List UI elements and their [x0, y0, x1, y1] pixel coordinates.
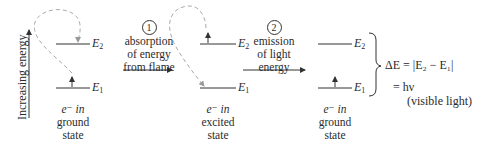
delta-e-equation: ΔE = |E₂ − E₁| — [385, 58, 453, 73]
brace — [369, 33, 381, 96]
state-label-excited: e⁻ inexcitedstate — [193, 103, 243, 142]
level-e2-label: E2 — [354, 36, 365, 51]
axis-label: Increasing energy — [15, 35, 30, 120]
step-2-label: 2 emissionof lightenergy — [243, 20, 305, 74]
level-e2-label: E2 — [92, 36, 103, 51]
state-label-ground-1: e⁻ ingroundstate — [48, 103, 98, 142]
h-nu-equation: = hν — [393, 80, 414, 95]
level-e1-label: E1 — [354, 80, 365, 95]
level-e1-label: E1 — [238, 80, 249, 95]
visible-light-note: (visible light) — [407, 94, 472, 109]
level-e1-label: E1 — [92, 80, 103, 95]
step-1-label: 1 absorptionof energyfrom flame — [118, 20, 180, 74]
step-number-badge: 2 — [267, 20, 282, 35]
state-label-ground-2: e⁻ ingroundstate — [310, 103, 360, 142]
step-number-badge: 1 — [142, 20, 157, 35]
